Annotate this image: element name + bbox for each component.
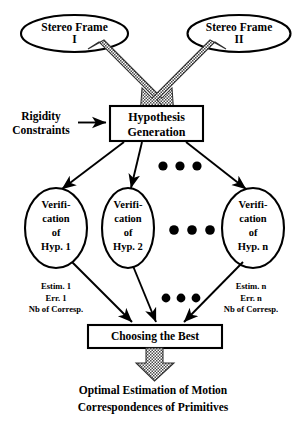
ellipsis-dots-estimates [162,294,201,303]
branch-to-verification-2 [131,142,142,188]
branch-to-verification-1 [62,142,124,189]
estimate-n-label: Estim. n Err. n Nb of Corresp. [209,281,293,316]
hypothesis-generation-label: Hypothesis Generation [110,110,203,140]
verification-n-label: Verifi- cation of Hyp. n [223,198,283,254]
verification-2-label: Verifi- cation of Hyp. 2 [100,198,156,254]
stereo-frame-2-label: Stereo Frame II [187,21,291,45]
estimate-1-label: Estim. 1 Err. 1 Nb of Corresp. [14,281,98,316]
thick-arrow-frame2-to-hypothesis [140,40,226,116]
thick-arrow-to-output [136,348,174,381]
final-output-label: Optimal Estimation of Motion Corresponde… [22,382,284,415]
result-arrow-2 [133,266,156,322]
verification-1-label: Verifi- cation of Hyp. 1 [26,198,86,254]
ellipsis-dots-hypothesis-branches [158,161,201,170]
ellipsis-dots-verifications [169,225,215,235]
stereo-frame-1-label: Stereo Frame I [21,21,128,45]
choosing-the-best-label: Choosing the Best [88,330,222,342]
rigidity-constraints-label: Rigidity Constraints [6,110,76,138]
